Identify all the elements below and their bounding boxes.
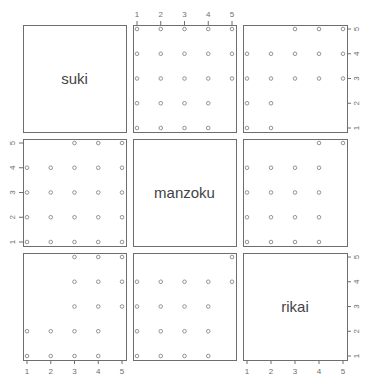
right-tick-label: 2 xyxy=(352,100,361,105)
right-tick-label: 3 xyxy=(352,76,361,81)
bottom-tick-label: 3 xyxy=(293,367,298,376)
bottom-tick-label: 1 xyxy=(245,367,250,376)
bottom-tick-label: 5 xyxy=(341,367,346,376)
right-tick-label: 1 xyxy=(352,353,361,358)
right-tick-label: 4 xyxy=(352,279,361,284)
bottom-tick-label: 2 xyxy=(269,367,274,376)
left-tick-label: 1 xyxy=(8,239,17,244)
left-tick-label: 2 xyxy=(8,214,17,219)
right-tick-label: 5 xyxy=(352,254,361,259)
scatter-panel-suki-vs-rikai xyxy=(244,26,348,133)
diag-label-manzoku: manzoku xyxy=(154,184,215,201)
bottom-tick-label: 2 xyxy=(49,367,54,376)
scatter-panel-rikai-vs-suki xyxy=(24,254,127,361)
right-tick-label: 2 xyxy=(352,328,361,333)
right-tick-label: 3 xyxy=(352,304,361,309)
bottom-tick-label: 4 xyxy=(317,367,322,376)
left-tick-label: 4 xyxy=(8,165,17,170)
bottom-tick-label: 1 xyxy=(25,367,30,376)
top-tick-label: 2 xyxy=(159,10,164,19)
diag-label-rikai: rikai xyxy=(281,298,309,315)
scatter-panel-manzoku-vs-suki xyxy=(24,140,127,247)
bottom-tick-label: 5 xyxy=(120,367,125,376)
scatter-panel-suki-vs-manzoku xyxy=(134,26,237,133)
left-tick-label: 5 xyxy=(8,140,17,145)
scatter-panel-manzoku-vs-rikai xyxy=(244,140,348,247)
right-tick-label: 4 xyxy=(352,51,361,56)
top-tick-label: 1 xyxy=(135,10,140,19)
bottom-tick-label: 3 xyxy=(72,367,77,376)
scatter-panel-rikai-vs-manzoku xyxy=(134,254,237,361)
top-tick-label: 3 xyxy=(182,10,187,19)
right-tick-label: 1 xyxy=(352,125,361,130)
bottom-tick-label: 4 xyxy=(96,367,101,376)
top-tick-label: 4 xyxy=(206,10,211,19)
right-tick-label: 5 xyxy=(352,26,361,31)
top-tick-label: 5 xyxy=(230,10,235,19)
left-tick-label: 3 xyxy=(8,190,17,195)
pairs-plot: 123451234512345123451234512345 suki manz… xyxy=(0,0,372,384)
diag-label-suki: suki xyxy=(61,70,88,87)
